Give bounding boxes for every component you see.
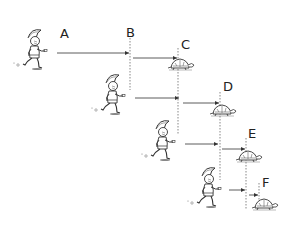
tortoise-figure-2 — [210, 105, 236, 116]
zeno-diagram — [0, 0, 294, 238]
achilles-figure-3 — [142, 121, 176, 161]
tortoise-figure-4 — [252, 199, 278, 210]
label-b: B — [126, 26, 135, 39]
label-e: E — [248, 127, 256, 140]
achilles-figure-4 — [188, 168, 222, 208]
tortoise-figure-3 — [236, 151, 262, 162]
row-3 — [142, 121, 263, 210]
label-c: C — [181, 38, 190, 51]
row-1 — [14, 30, 195, 135]
achilles-figure-1 — [14, 30, 48, 70]
achilles-figure-2 — [92, 75, 126, 115]
tortoise-figure-1 — [168, 59, 194, 70]
label-d: D — [223, 80, 233, 93]
label-a: A — [60, 27, 69, 40]
label-f: F — [262, 176, 269, 189]
